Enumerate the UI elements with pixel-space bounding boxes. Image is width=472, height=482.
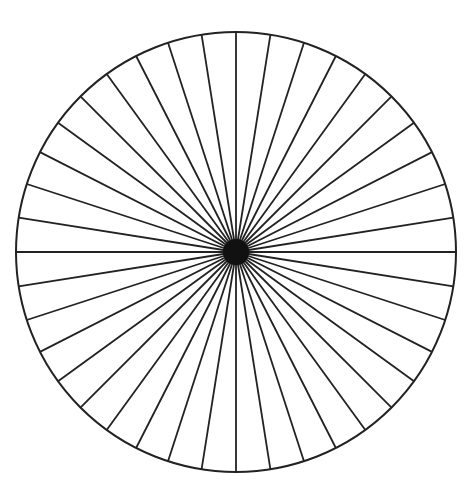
spoke-line xyxy=(236,252,445,320)
center-hub xyxy=(223,239,249,265)
spoke-line xyxy=(236,252,304,461)
spoke-line xyxy=(27,252,236,320)
spoke-line xyxy=(58,123,236,252)
spoke-line xyxy=(80,96,236,252)
spoke-line xyxy=(107,74,236,252)
spoke-line xyxy=(58,252,236,381)
spoke-line xyxy=(80,252,236,408)
spoke-line xyxy=(236,252,365,430)
spoke-line xyxy=(27,184,236,252)
spoke-line xyxy=(236,252,414,381)
spoke-line xyxy=(168,43,236,252)
spoke-line xyxy=(168,252,236,461)
spoke-line xyxy=(236,74,365,252)
spoke-line xyxy=(236,43,304,252)
spoke-line xyxy=(236,184,445,252)
spoke-line xyxy=(236,252,392,408)
spoke-wheel-diagram xyxy=(0,0,472,482)
spoke-line xyxy=(236,123,414,252)
spoke-line xyxy=(107,252,236,430)
spoke-line xyxy=(236,96,392,252)
